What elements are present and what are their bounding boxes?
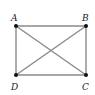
label-c: C: [82, 82, 89, 92]
point-d: [14, 73, 18, 77]
point-c: [84, 73, 88, 77]
point-a: [14, 24, 18, 28]
label-b: B: [81, 13, 89, 23]
rectangle-diagram: A B C D: [0, 0, 95, 95]
point-b: [84, 24, 88, 28]
label-a: A: [10, 13, 18, 23]
label-d: D: [10, 82, 18, 92]
